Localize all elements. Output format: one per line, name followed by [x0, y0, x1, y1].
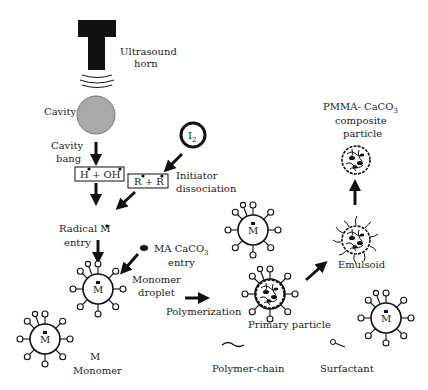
- radical-entry-label-2: entry: [64, 237, 91, 248]
- svg-text:R + R: R + R: [134, 176, 164, 187]
- radical-dot-icon: [105, 224, 108, 227]
- legend-monomer-label: Monomer: [73, 365, 122, 376]
- polymerization-label: Polymerization: [166, 306, 242, 317]
- composite-particle-icon: [342, 146, 370, 174]
- legend-polymer-chain-label: Polymer-chain: [212, 363, 285, 374]
- svg-text:M: M: [248, 225, 258, 236]
- legend-monomer-droplet-icon: M: [17, 311, 73, 367]
- svg-text:H + OH: H + OH: [80, 169, 121, 180]
- monomer-droplet-icon-3: M: [358, 290, 414, 346]
- cavity-bang-label-2: bang: [56, 153, 82, 164]
- svg-text:M: M: [93, 284, 103, 295]
- monomer-droplet-label: Monomer: [132, 274, 181, 285]
- h-oh-radicals-box: H + OH: [75, 167, 124, 181]
- ultrasound-horn-icon: [78, 20, 116, 88]
- legend-m-label: M: [90, 351, 100, 362]
- composite-label-3: particle: [343, 128, 382, 139]
- emulsoid-icon: [333, 216, 378, 263]
- svg-text:M: M: [40, 334, 50, 345]
- arrow-to-emulsoid: [306, 265, 323, 280]
- primary-particle-icon: [242, 266, 298, 322]
- emulsion-polymerization-diagram: Ultrasound horn Cavity Cavity bang H + O…: [0, 0, 428, 390]
- maca-entry-label: entry: [168, 257, 195, 268]
- maca-particle-icon: [140, 245, 148, 251]
- svg-text:M: M: [381, 313, 391, 324]
- ultrasound-label: Ultrasound: [120, 46, 177, 57]
- radical-entry-label: Radical M: [59, 223, 111, 234]
- r-r-radicals-box: R + R: [128, 174, 168, 188]
- arrow-i2-to-rr: [168, 154, 182, 168]
- monomer-droplet-icon: M: [70, 261, 126, 317]
- emulsoid-label: Emulsoid: [338, 259, 386, 270]
- monomer-droplet-icon-2: M: [225, 202, 281, 258]
- cavity-bubble-icon: [77, 96, 115, 134]
- legend-surfactant-icon: [331, 340, 346, 348]
- cavity-label: Cavity: [44, 106, 76, 117]
- arrow-rr-to-radical: [120, 192, 135, 206]
- composite-label-2: composite: [335, 115, 387, 126]
- dissociation-label: dissociation: [176, 183, 237, 194]
- primary-particle-label: Primary particle: [248, 319, 331, 330]
- legend-polymer-chain-icon: [222, 343, 244, 347]
- arrow-maca-to-droplet: [124, 254, 138, 270]
- maca-label: MA CaCO3: [154, 243, 209, 257]
- legend-surfactant-label: Surfactant: [320, 363, 374, 374]
- horn-label: horn: [134, 58, 158, 69]
- composite-label: PMMA- CaCO3: [323, 101, 398, 115]
- cavity-bang-label-1: Cavity: [51, 140, 83, 151]
- initiator-label: Initiator: [176, 170, 218, 181]
- droplet-label: droplet: [138, 287, 175, 298]
